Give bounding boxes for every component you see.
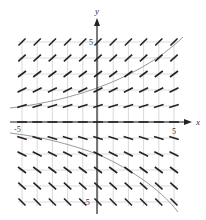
x-tick-label-5: 5 [172,127,176,136]
x-tick-label-neg5: -5 [14,125,21,134]
y-axis-label: y [94,6,99,16]
x-axis-label: x [195,117,200,127]
grid-lines [18,40,178,206]
y-axis-arrow-icon [94,18,100,26]
y-tick-label-5: 5 [89,38,93,47]
slope-field-diagram: x y -5 5 5 -5 [0,0,206,220]
y-tick-label-neg5: -5 [83,198,90,207]
x-axis-arrow-icon [184,119,192,125]
